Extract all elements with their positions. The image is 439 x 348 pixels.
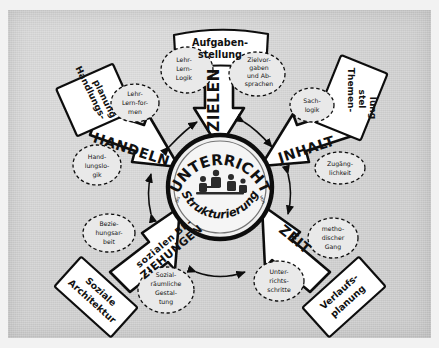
svg-text:lichkeit: lichkeit — [329, 169, 352, 176]
bubble-zugaenglichkeit — [315, 152, 365, 184]
svg-text:hungsar-: hungsar- — [95, 229, 122, 237]
svg-text:Bezie-: Bezie- — [99, 220, 118, 227]
svg-text:beit: beit — [103, 238, 115, 245]
svg-text:Aufgaben-: Aufgaben- — [192, 37, 248, 48]
bubble-sachlogik — [290, 88, 334, 122]
svg-text:stellung: stellung — [198, 49, 242, 60]
svg-text:gaben: gaben — [249, 64, 268, 72]
svg-text:metho-: metho- — [322, 225, 344, 232]
bubble-text-unterrichtsschritte: Unter- richts- schritte — [267, 268, 291, 293]
svg-text:und Ab-: und Ab- — [247, 72, 271, 79]
bubble-text-sachlogik: Sach- logik — [303, 97, 320, 114]
svg-text:Unter-: Unter- — [269, 268, 288, 275]
svg-text:logik: logik — [305, 106, 320, 114]
svg-text:men: men — [128, 108, 142, 115]
svg-text:stel: stel — [357, 90, 367, 109]
svg-text:Hand-: Hand- — [88, 153, 107, 160]
svg-text:schritte: schritte — [267, 286, 291, 293]
diagram-canvas: UNTERRICHT Strukturierung als von ZIELEN… — [0, 0, 439, 348]
svg-text:Sozial-: Sozial- — [156, 271, 176, 278]
spoke-label-zielen: ZIELEN — [205, 68, 223, 132]
svg-text:lungslo-: lungslo- — [85, 162, 110, 170]
svg-text:Gestal-: Gestal- — [155, 289, 177, 296]
svg-text:räumliche: räumliche — [151, 280, 182, 287]
svg-text:Gang: Gang — [325, 243, 342, 251]
connector-zeit-beziehungen — [196, 272, 245, 277]
svg-text:Sach-: Sach- — [303, 97, 320, 104]
connector-beziehungen-handeln — [149, 174, 152, 214]
bubble-text-lehr-lern-logik: Lehr- Lern- Logik — [176, 56, 193, 82]
svg-text:tung: tung — [159, 298, 173, 306]
svg-text:sprachen: sprachen — [245, 80, 274, 88]
svg-text:Logik: Logik — [176, 74, 193, 82]
svg-text:Lehr-: Lehr- — [176, 56, 191, 63]
svg-text:Themen-: Themen- — [346, 68, 356, 113]
svg-text:gik: gik — [92, 171, 102, 179]
connector-inhalt-zeit — [288, 174, 291, 214]
svg-text:lung: lung — [368, 97, 378, 119]
svg-text:Lern-: Lern- — [176, 65, 192, 72]
svg-text:discher: discher — [322, 234, 345, 241]
svg-text:richts-: richts- — [269, 277, 288, 284]
screenshot-root: UNTERRICHT Strukturierung als von ZIELEN… — [0, 0, 439, 348]
banner-text-aufgabenstellung: Aufgaben- stellung — [192, 37, 248, 60]
svg-text:Lehr-: Lehr- — [127, 90, 142, 97]
svg-text:Zielvor-: Zielvor- — [247, 56, 270, 63]
bubble-text-zielvorgaben: Zielvor- gaben und Ab- sprachen — [245, 56, 274, 88]
svg-text:Zugäng-: Zugäng- — [327, 160, 353, 168]
svg-text:Lern-for-: Lern-for- — [122, 99, 148, 106]
